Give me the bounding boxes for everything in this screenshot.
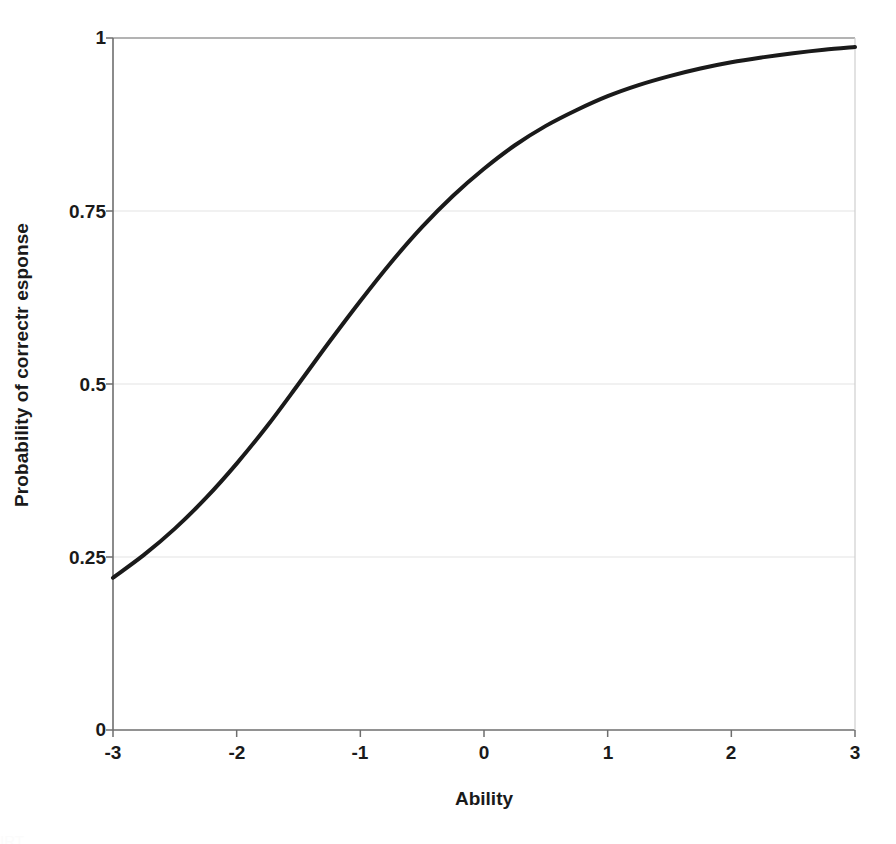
x-axis-title: Ability	[113, 788, 855, 810]
x-tick-label-2: 2	[726, 742, 737, 764]
caption-cutoff-text: IRT	[0, 832, 896, 844]
y-tick-label-0: 0	[42, 719, 106, 741]
icc-curve	[113, 47, 855, 578]
x-tick-label-3: 3	[850, 742, 861, 764]
y-axis-title: Probability of correctr esponse	[0, 0, 44, 730]
y-tick-label-0.25: 0.25	[42, 547, 106, 569]
y-tick-label-1: 1	[42, 27, 106, 49]
y-tick-label-0.5: 0.5	[42, 374, 106, 396]
y-axis-tick-labels: 0 0.25 0.5 0.75 1	[40, 0, 106, 844]
y-axis-title-text: Probability of correctr esponse	[11, 223, 33, 507]
axis-ticks	[106, 38, 855, 737]
x-tick-label--1: -1	[352, 742, 369, 764]
y-tick-label-0.75: 0.75	[42, 201, 106, 223]
item-characteristic-curve-chart: Probability of correctr esponse 0 0.25 0…	[0, 0, 896, 844]
x-axis-tick-labels: -3 -2 -1 0 1 2 3	[113, 742, 855, 772]
plot-area	[113, 38, 855, 730]
x-tick-label-0: 0	[479, 742, 490, 764]
plot-canvas	[113, 38, 855, 730]
x-tick-label--3: -3	[105, 742, 122, 764]
x-tick-label--2: -2	[229, 742, 246, 764]
x-tick-label-1: 1	[603, 742, 614, 764]
